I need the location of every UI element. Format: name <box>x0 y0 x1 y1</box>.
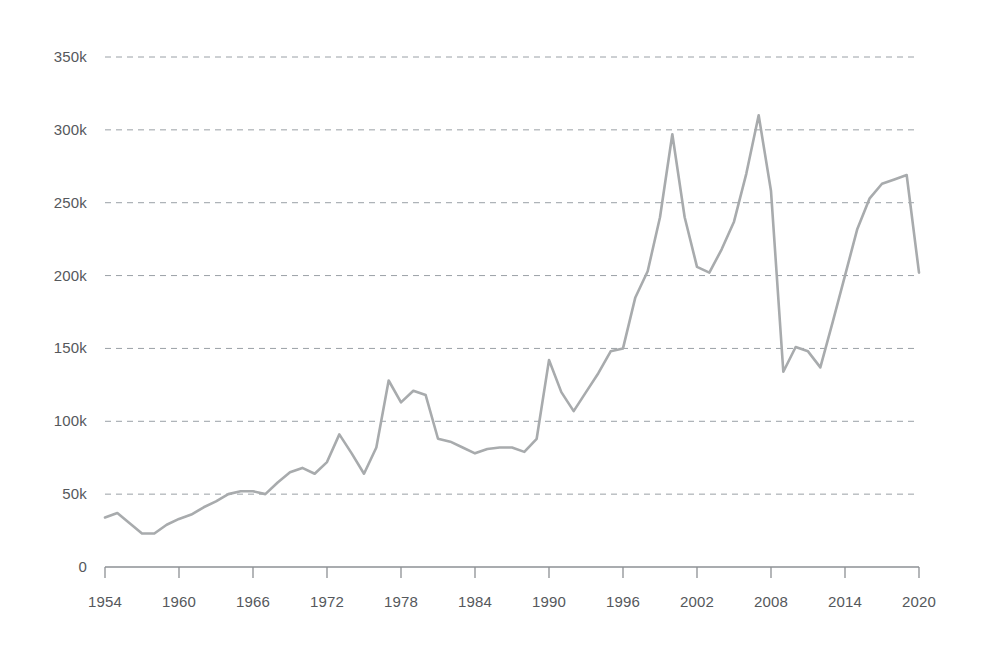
x-axis-tick-label: 1990 <box>532 593 566 610</box>
y-axis-tick-label: 200k <box>54 267 88 284</box>
line-chart: 050k100k150k200k250k300k350k 19541960196… <box>0 0 982 654</box>
x-axis-tick-label: 2020 <box>902 593 936 610</box>
gridlines <box>105 57 919 494</box>
x-axis-tick-label: 2002 <box>680 593 714 610</box>
x-axis-tick-label: 2008 <box>754 593 788 610</box>
x-axis-tick-label: 1966 <box>236 593 270 610</box>
x-axis-tick-label: 1996 <box>606 593 640 610</box>
x-axis <box>105 567 919 578</box>
x-axis-tick-label: 1960 <box>162 593 196 610</box>
y-axis-tick-label: 350k <box>54 48 88 65</box>
x-axis-tick-label: 1954 <box>88 593 122 610</box>
x-axis-tick-label: 1984 <box>458 593 492 610</box>
y-axis-tick-label: 300k <box>54 121 88 138</box>
x-axis-tick-label: 1978 <box>384 593 418 610</box>
chart-container: 050k100k150k200k250k300k350k 19541960196… <box>0 0 982 654</box>
y-axis-tick-labels: 050k100k150k200k250k300k350k <box>54 48 88 575</box>
y-axis-tick-label: 150k <box>54 339 88 356</box>
y-axis-tick-label: 250k <box>54 194 88 211</box>
x-axis-tick-labels: 1954196019661972197819841990199620022008… <box>88 593 936 610</box>
series-line-1 <box>105 115 919 533</box>
data-series <box>105 115 919 533</box>
y-axis-tick-label: 100k <box>54 412 88 429</box>
y-axis-tick-label: 50k <box>62 485 87 502</box>
y-axis-tick-label: 0 <box>78 558 87 575</box>
x-axis-tick-label: 2014 <box>828 593 862 610</box>
x-axis-tick-label: 1972 <box>310 593 344 610</box>
